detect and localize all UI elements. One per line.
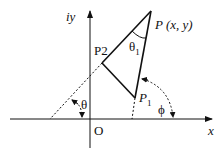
origin-label: O [94,124,103,137]
dashed-extension-p1 [132,98,135,119]
theta1-label: θ1 [129,40,140,57]
theta-label: θ [81,98,87,111]
x-axis-label: x [208,124,214,137]
complex-plane-diagram: iy x O P (x, y) P2 P1 θ1 θ ϕ [0,0,224,151]
dashed-extension-p2 [50,63,102,119]
point-p-label: P (x, y) [155,18,193,31]
theta1-arc [132,31,146,38]
point-p1-label: P1 [139,91,151,108]
y-axis-label: iy [66,10,75,23]
phi-label: ϕ [158,103,165,116]
segment-p2-p1 [102,63,135,98]
point-p2-label: P2 [94,44,108,57]
